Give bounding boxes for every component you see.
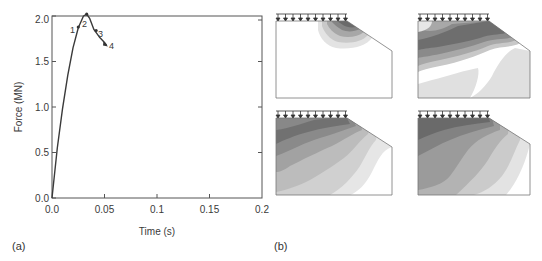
y-axis-ticks <box>52 16 262 198</box>
panel-b-label: (b) <box>274 240 287 252</box>
annotation-1: 1 <box>70 25 75 35</box>
panel-a-label: (a) <box>12 240 25 252</box>
x-tick-1: 0.05 <box>95 204 115 215</box>
y-axis-label: Force (MN) <box>13 82 24 133</box>
x-tick-4: 0.2 <box>255 204 269 215</box>
x-axis-label: Time (s) <box>139 226 175 237</box>
force-time-chart: 0.0 0.5 1.0 1.5 2.0 0.0 0.05 0.1 0.15 0.… <box>13 13 269 237</box>
load-arrows-state-3 <box>276 111 348 118</box>
contour-plot-state-1 <box>276 21 392 98</box>
contour-plot-state-3 <box>276 118 392 195</box>
y-tick-4: 2.0 <box>35 14 49 25</box>
annotation-3: 3 <box>98 29 103 39</box>
y-tick-1: 0.5 <box>35 147 49 158</box>
annotation-4: 4 <box>109 41 114 51</box>
x-tick-labels: 0.0 0.05 0.1 0.15 0.2 <box>45 204 269 215</box>
load-arrows-state-4 <box>418 111 490 118</box>
y-tick-3: 1.5 <box>35 56 49 67</box>
y-tick-0: 0.0 <box>35 193 49 204</box>
annotation-2: 2 <box>82 19 87 29</box>
load-arrows-state-1 <box>276 14 348 21</box>
y-tick-2: 1.0 <box>35 102 49 113</box>
contour-plot-state-2 <box>418 21 530 98</box>
x-tick-3: 0.15 <box>200 204 220 215</box>
force-curve <box>52 14 107 198</box>
y-tick-labels: 0.0 0.5 1.0 1.5 2.0 <box>35 14 49 204</box>
load-arrows-state-2 <box>418 14 490 21</box>
contour-plot-state-4 <box>418 118 530 195</box>
x-tick-2: 0.1 <box>150 204 164 215</box>
figure: 0.0 0.5 1.0 1.5 2.0 0.0 0.05 0.1 0.15 0.… <box>0 0 542 261</box>
plot-frame <box>52 16 262 198</box>
x-axis-ticks <box>105 194 210 198</box>
x-tick-0: 0.0 <box>45 204 59 215</box>
